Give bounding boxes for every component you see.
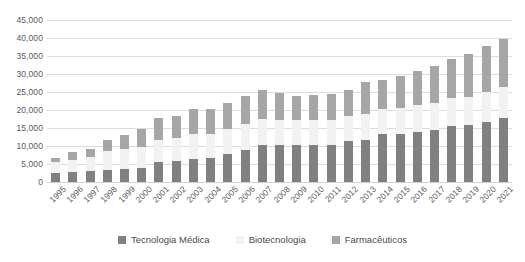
- bar-segment: [396, 134, 405, 182]
- y-axis-tick-label: 5,000: [21, 159, 43, 169]
- x-axis-tick-label: 2020: [478, 184, 499, 205]
- bar-segment: [464, 97, 473, 125]
- x-axis-tick-label: 2017: [426, 184, 447, 205]
- bar-segment: [275, 145, 284, 182]
- bar-segment: [396, 108, 405, 134]
- bar-segment: [275, 93, 284, 120]
- legend-item[interactable]: Biotecnologia: [236, 234, 306, 245]
- stacked-bar-chart: 45,00040,00035,00030,00025,00020,00015,0…: [0, 0, 525, 262]
- bar-group[interactable]: [103, 140, 112, 182]
- bar-segment: [172, 116, 181, 138]
- bar-segment: [241, 124, 250, 150]
- x-axis-tick-label: 2010: [305, 184, 326, 205]
- x-axis-tick-label: 2001: [150, 184, 171, 205]
- bar-segment: [447, 98, 456, 126]
- bar-segment: [68, 152, 77, 160]
- bar-segment: [430, 66, 439, 103]
- bar-segment: [68, 172, 77, 182]
- bar-group[interactable]: [68, 152, 77, 182]
- legend-swatch-icon: [236, 236, 244, 244]
- x-axis-tick-label: 2019: [460, 184, 481, 205]
- bar-segment: [430, 130, 439, 182]
- bar-segment: [361, 140, 370, 182]
- bar-group[interactable]: [482, 46, 491, 182]
- bar-segment: [86, 157, 95, 171]
- legend-item[interactable]: Tecnologia Médica: [118, 234, 210, 245]
- bar-segment: [396, 76, 405, 108]
- bar-segment: [241, 96, 250, 124]
- bar-segment: [413, 105, 422, 132]
- legend-label: Biotecnologia: [249, 234, 306, 245]
- bar-segment: [154, 162, 163, 182]
- gridline: [47, 182, 512, 183]
- bar-segment: [499, 39, 508, 87]
- bars-layer: [47, 20, 512, 182]
- bar-segment: [275, 120, 284, 145]
- bar-group[interactable]: [309, 95, 318, 182]
- bar-group[interactable]: [275, 93, 284, 182]
- bar-group[interactable]: [120, 135, 129, 182]
- y-axis-tick-label: 15,000: [16, 123, 43, 133]
- x-axis: 1995199619971998199920002001200220032004…: [47, 184, 512, 224]
- bar-segment: [378, 80, 387, 109]
- bar-group[interactable]: [430, 66, 439, 182]
- x-axis-tick-label: 2006: [236, 184, 257, 205]
- bar-group[interactable]: [137, 129, 146, 182]
- bar-group[interactable]: [447, 59, 456, 182]
- x-axis-tick-label: 2011: [323, 184, 343, 204]
- bar-segment: [206, 109, 215, 134]
- x-axis-tick-label: 1995: [47, 184, 68, 205]
- bar-segment: [120, 169, 129, 182]
- bar-group[interactable]: [361, 82, 370, 182]
- bar-group[interactable]: [206, 109, 215, 182]
- bar-group[interactable]: [292, 96, 301, 182]
- bar-group[interactable]: [51, 158, 60, 182]
- bar-segment: [464, 125, 473, 182]
- bar-segment: [223, 103, 232, 129]
- bar-group[interactable]: [241, 96, 250, 182]
- y-axis-tick-label: 45,000: [16, 15, 43, 25]
- bar-segment: [378, 109, 387, 135]
- y-axis-tick-label: 40,000: [16, 33, 43, 43]
- bar-group[interactable]: [344, 90, 353, 182]
- bar-segment: [292, 145, 301, 182]
- bar-segment: [413, 132, 422, 182]
- bar-group[interactable]: [172, 116, 181, 182]
- bar-segment: [482, 92, 491, 122]
- bar-segment: [344, 90, 353, 116]
- bar-segment: [499, 118, 508, 182]
- x-axis-tick-label: 2021: [495, 184, 516, 205]
- bar-group[interactable]: [223, 103, 232, 182]
- bar-segment: [68, 160, 77, 173]
- bar-segment: [189, 159, 198, 182]
- bar-group[interactable]: [327, 94, 336, 182]
- bar-segment: [103, 170, 112, 182]
- y-axis-tick-label: 30,000: [16, 69, 43, 79]
- chart-legend: Tecnologia MédicaBiotecnologiaFarmacêuti…: [0, 234, 525, 245]
- x-axis-tick-label: 2007: [254, 184, 275, 205]
- bar-group[interactable]: [413, 71, 422, 182]
- bar-segment: [241, 150, 250, 182]
- x-axis-tick-label: 2014: [374, 184, 395, 205]
- bar-segment: [137, 129, 146, 147]
- bar-group[interactable]: [499, 39, 508, 182]
- legend-item[interactable]: Farmacêuticos: [332, 234, 407, 245]
- bar-group[interactable]: [258, 90, 267, 183]
- bar-segment: [499, 87, 508, 118]
- y-axis-tick-label: 25,000: [16, 87, 43, 97]
- bar-segment: [464, 54, 473, 97]
- bar-segment: [482, 46, 491, 92]
- bar-group[interactable]: [154, 118, 163, 182]
- bar-segment: [51, 162, 60, 173]
- bar-group[interactable]: [189, 109, 198, 182]
- bar-group[interactable]: [464, 54, 473, 182]
- bar-segment: [327, 94, 336, 120]
- x-axis-tick-label: 2015: [391, 184, 412, 205]
- x-axis-tick-label: 2005: [219, 184, 240, 205]
- bar-group[interactable]: [86, 149, 95, 182]
- bar-group[interactable]: [396, 76, 405, 182]
- x-axis-tick-label: 2002: [168, 184, 189, 205]
- bar-segment: [172, 138, 181, 161]
- bar-group[interactable]: [378, 80, 387, 182]
- bar-segment: [172, 161, 181, 182]
